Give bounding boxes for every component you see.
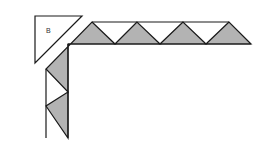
top-gray-triangle	[115, 22, 160, 44]
top-gray-triangle	[206, 22, 251, 44]
triangle-b-label: B	[46, 27, 51, 34]
top-gray-triangle	[160, 22, 206, 44]
triangle-strip-diagram: B	[0, 0, 267, 142]
side-gray-triangle	[46, 92, 68, 138]
